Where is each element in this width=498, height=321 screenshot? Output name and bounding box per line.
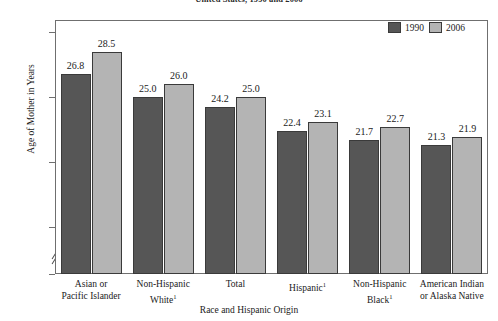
bar-1990-3 (277, 131, 307, 274)
bar-value-label: 25.0 (231, 84, 271, 94)
legend-swatch-2006 (429, 22, 442, 33)
bar-group: 22.423.1 (277, 20, 338, 274)
bar-2006-0 (92, 52, 122, 275)
bar-group: 21.321.9 (421, 20, 482, 274)
bar-group: 21.722.7 (349, 20, 410, 274)
bar-2006-3 (308, 122, 338, 274)
bars-layer: 26.828.525.026.024.225.022.423.121.722.7… (55, 20, 488, 274)
bar-group: 26.828.5 (61, 20, 122, 274)
bar-value-label: 23.1 (303, 109, 343, 119)
bar-2006-5 (452, 137, 482, 274)
bar-value-label: 21.7 (344, 127, 384, 137)
bar-1990-5 (421, 145, 451, 274)
bar-value-label: 21.9 (447, 124, 487, 134)
bar-chart: United States, 1990 and 2006 Age of Moth… (0, 0, 498, 321)
bar-1990-0 (61, 74, 91, 274)
bar-value-label: 26.8 (56, 61, 96, 71)
legend-item-2006: 2006 (429, 22, 465, 33)
chart-legend: 1990 2006 (388, 22, 465, 33)
bar-value-label: 22.4 (272, 118, 312, 128)
bar-2006-1 (164, 84, 194, 274)
legend-label-1990: 1990 (405, 23, 424, 33)
legend-label-2006: 2006 (446, 23, 465, 33)
bar-value-label: 22.7 (375, 114, 415, 124)
bar-1990-1 (133, 97, 163, 274)
bar-1990-2 (205, 107, 235, 274)
bar-2006-4 (380, 127, 410, 274)
bar-1990-4 (349, 140, 379, 274)
bar-value-label: 24.2 (200, 94, 240, 104)
bar-value-label: 28.5 (87, 39, 127, 49)
bar-value-label: 25.0 (128, 84, 168, 94)
bar-value-label: 26.0 (159, 71, 199, 81)
x-axis-title: Race and Hispanic Origin (0, 305, 498, 315)
chart-title: United States, 1990 and 2006 (0, 0, 498, 4)
bar-2006-2 (236, 97, 266, 274)
x-label-5: American Indianor Alaska Native (408, 279, 496, 302)
legend-item-1990: 1990 (388, 22, 424, 33)
bar-group: 25.026.0 (133, 20, 194, 274)
y-tick-mark (49, 274, 55, 275)
legend-swatch-1990 (388, 22, 401, 33)
y-axis-title: Age of Mother in Years (26, 34, 36, 184)
bar-group: 24.225.0 (205, 20, 266, 274)
